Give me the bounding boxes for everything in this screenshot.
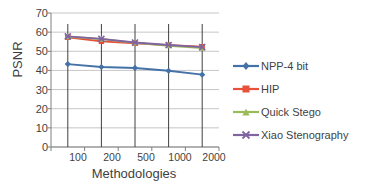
- data-point-marker: [166, 68, 172, 74]
- legend-item-xiao-stenography[interactable]: Xiao Stenography: [232, 124, 367, 145]
- legend-label: NPP-4 bit: [260, 60, 308, 72]
- legend-triangle-marker-icon: [232, 105, 260, 119]
- legend-label: HIP: [260, 83, 279, 95]
- data-point-marker: [98, 64, 104, 70]
- x-tick-label: 100: [61, 151, 95, 163]
- legend-item-hip[interactable]: HIP: [232, 78, 367, 99]
- legend-x-marker-icon: [232, 128, 260, 142]
- data-point-marker: [199, 72, 205, 78]
- x-tick-label: 500: [129, 151, 163, 163]
- x-tick-label: 200: [95, 151, 129, 163]
- psnr-line-chart: PSNR 70 60 50 40 30 20 10 0 100 200 500 …: [0, 0, 367, 194]
- legend-item-npp-4-bit[interactable]: NPP-4 bit: [232, 55, 367, 76]
- legend-diamond-marker-icon: [232, 59, 260, 73]
- legend-square-marker-icon: [232, 82, 260, 96]
- legend-label: Xiao Stenography: [260, 129, 348, 141]
- legend-item-quick-stego[interactable]: Quick Stego: [232, 101, 367, 122]
- data-point-marker: [65, 61, 71, 67]
- x-tick-label: 2000: [197, 151, 231, 163]
- chart-legend: NPP-4 bit HIP Quick Stego: [232, 55, 367, 147]
- x-tick-label: 1000: [163, 151, 197, 163]
- x-axis-title: Methodologies: [48, 166, 220, 181]
- legend-label: Quick Stego: [260, 106, 321, 118]
